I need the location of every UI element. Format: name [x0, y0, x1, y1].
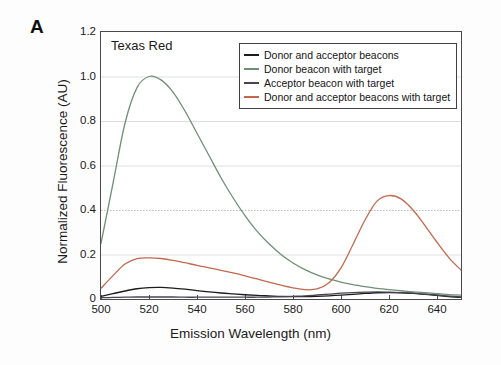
y-tick-label: 0.2	[80, 248, 96, 260]
y-tick-label: 0.8	[80, 114, 96, 126]
x-tick-label: 640	[427, 303, 446, 315]
legend-entry: Donor and acceptor beacons with target	[244, 90, 450, 104]
legend-entry: Acceptor beacon with target	[244, 76, 450, 90]
panel-letter: A	[30, 16, 44, 38]
y-tick-label: 0.6	[80, 159, 96, 171]
plot-annotation-texas-red: Texas Red	[111, 38, 172, 53]
x-tick-label: 560	[235, 303, 254, 315]
x-tick-label: 520	[139, 303, 158, 315]
y-tick-label: 1.0	[80, 70, 96, 82]
legend-line-swatch-icon	[244, 96, 259, 98]
legend-label: Donor and acceptor beacons with target	[264, 91, 450, 103]
x-tick-label: 500	[91, 303, 110, 315]
series-line-2	[101, 292, 461, 298]
legend-entry: Donor beacon with target	[244, 62, 450, 76]
figure-panel: A Normalized Fluorescence (AU) 00.20.40.…	[0, 0, 501, 365]
y-axis-title-wrapper: Normalized Fluorescence (AU)	[24, 90, 44, 270]
legend-label: Donor and acceptor beacons	[264, 49, 399, 61]
legend-entry: Donor and acceptor beacons	[244, 48, 450, 62]
x-tick-label: 620	[379, 303, 398, 315]
legend-label: Acceptor beacon with target	[264, 77, 394, 89]
legend-line-swatch-icon	[244, 54, 259, 56]
y-tick-label: 1.2	[80, 25, 96, 37]
x-tick-label: 540	[187, 303, 206, 315]
legend-label: Donor beacon with target	[264, 63, 381, 75]
series-line-3	[101, 195, 461, 289]
x-tick-label: 580	[283, 303, 302, 315]
legend-line-swatch-icon	[244, 68, 259, 70]
x-axis-title: Emission Wavelength (nm)	[0, 326, 501, 341]
series-lines	[101, 76, 461, 298]
y-tick-label: 0.4	[80, 203, 96, 215]
legend: Donor and acceptor beaconsDonor beacon w…	[239, 43, 457, 109]
x-tick-label: 600	[331, 303, 350, 315]
x-axis-tick-labels: 500520540560580600620640	[0, 303, 501, 323]
legend-line-swatch-icon	[244, 82, 259, 84]
